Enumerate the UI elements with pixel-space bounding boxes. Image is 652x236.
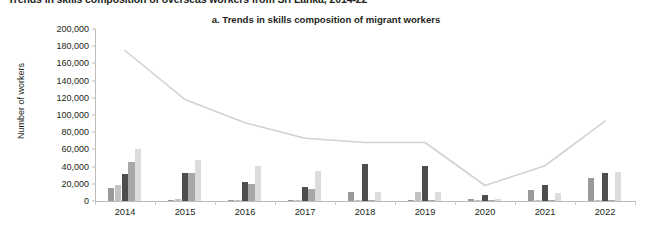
x-axis-line — [95, 201, 635, 202]
x-tick-label: 2016 — [235, 207, 256, 217]
x-tick-label: 2021 — [535, 207, 556, 217]
x-tick-mark — [515, 201, 516, 205]
y-tick-label: 60,000 — [61, 144, 95, 154]
y-tick-label: 180,000 — [56, 41, 95, 51]
y-tick-label: 120,000 — [56, 93, 95, 103]
y-tick-label: 100,000 — [56, 110, 95, 120]
x-tick-mark — [95, 201, 96, 205]
plot-area: 020,00040,00060,00080,000100,000120,0001… — [95, 29, 635, 201]
x-tick-label: 2018 — [355, 207, 376, 217]
x-tick-mark — [275, 201, 276, 205]
x-tick-mark — [155, 201, 156, 205]
x-tick-mark — [635, 201, 636, 205]
report-title: Trends in skills composition of overseas… — [8, 0, 367, 5]
panel-caption: a. Trends in skills composition of migra… — [0, 14, 652, 25]
y-tick-label: 160,000 — [56, 58, 95, 68]
line-series-layer — [95, 29, 635, 201]
x-tick-mark — [335, 201, 336, 205]
x-tick-mark — [215, 201, 216, 205]
x-tick-label: 2015 — [175, 207, 196, 217]
y-tick-label: 140,000 — [56, 76, 95, 86]
y-tick-label: 200,000 — [56, 24, 95, 34]
x-tick-mark — [455, 201, 456, 205]
y-tick-label: 40,000 — [61, 162, 95, 172]
x-tick-mark — [575, 201, 576, 205]
chart-figure: Trends in skills composition of overseas… — [0, 0, 652, 236]
x-tick-label: 2014 — [115, 207, 136, 217]
y-tick-label: 20,000 — [61, 179, 95, 189]
y-axis-title: Number of workers — [16, 36, 26, 166]
x-tick-label: 2017 — [295, 207, 316, 217]
x-tick-label: 2019 — [415, 207, 436, 217]
x-tick-label: 2022 — [595, 207, 616, 217]
line-series-path — [125, 51, 605, 186]
x-tick-mark — [395, 201, 396, 205]
x-tick-label: 2020 — [475, 207, 496, 217]
y-tick-label: 80,000 — [61, 127, 95, 137]
